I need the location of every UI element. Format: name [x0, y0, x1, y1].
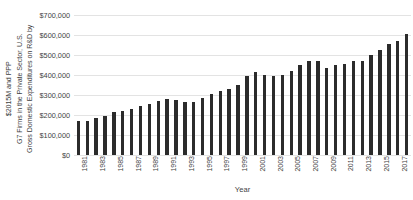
- x-axis-tick-label: 2003: [277, 156, 284, 172]
- bar: [281, 75, 284, 155]
- x-axis-tick-label: 2005: [294, 156, 301, 172]
- x-axis-tick-label: 2009: [330, 156, 337, 172]
- bar: [396, 41, 399, 155]
- bar-series: [74, 15, 411, 155]
- y-axis-title-line-3: $2015M and PPP: [4, 62, 15, 117]
- bar: [254, 72, 257, 155]
- y-axis-tick-labels: $0$100,000$200,000$300,000$400,000$500,0…: [34, 0, 73, 178]
- bar: [316, 61, 319, 155]
- bar: [378, 50, 381, 155]
- x-axis-tick-label: 1985: [117, 156, 124, 172]
- x-axis-tick-label: 1999: [241, 156, 248, 172]
- bar: [94, 118, 97, 155]
- bar: [405, 34, 408, 155]
- x-axis-tick-label: 2015: [383, 156, 390, 172]
- y-axis-tick-label: $600,000: [40, 31, 70, 40]
- bar: [219, 91, 222, 155]
- bar: [183, 102, 186, 155]
- bar: [298, 65, 301, 155]
- bar: [112, 112, 115, 155]
- bar: [290, 71, 293, 155]
- bar: [157, 101, 160, 155]
- bar: [227, 89, 230, 155]
- x-axis-tick-label: 1983: [99, 156, 106, 172]
- bar: [139, 106, 142, 155]
- bar: [165, 99, 168, 155]
- y-axis-tick-label: $200,000: [40, 111, 70, 120]
- bar: [192, 102, 195, 155]
- y-axis-title-line-2: G7 Firms in the Private Sector, U.S.: [15, 34, 26, 145]
- bar: [174, 100, 177, 155]
- x-axis-tick-label: 2001: [259, 156, 266, 172]
- bar: [334, 65, 337, 155]
- x-axis-title: Year: [74, 185, 411, 194]
- bar: [272, 76, 275, 155]
- bar: [307, 61, 310, 155]
- bar: [130, 109, 133, 155]
- y-axis-tick-label: $300,000: [40, 91, 70, 100]
- bar: [387, 44, 390, 155]
- bar: [210, 94, 213, 155]
- bar: [369, 55, 372, 155]
- x-axis-tick-label: 1993: [188, 156, 195, 172]
- x-axis-tick-label: 1989: [152, 156, 159, 172]
- bar: [103, 116, 106, 155]
- bar: [77, 121, 80, 155]
- rd-expenditures-bar-chart: Gross Domestic Expenditures on R&D by G7…: [0, 0, 413, 200]
- x-axis-tick-label: 1997: [223, 156, 230, 172]
- bar: [343, 64, 346, 155]
- y-axis-tick-label: $100,000: [40, 131, 70, 140]
- x-axis-tick-label: 2017: [401, 156, 408, 172]
- bar: [201, 98, 204, 155]
- bar: [361, 61, 364, 155]
- y-axis-tick-label: $400,000: [40, 71, 70, 80]
- bar: [121, 111, 124, 155]
- plot-area: [74, 15, 411, 155]
- bar: [86, 121, 89, 155]
- x-axis-tick-label: 1981: [81, 156, 88, 172]
- bar: [245, 76, 248, 155]
- y-axis-tick-label: $0: [62, 151, 70, 160]
- bar: [263, 75, 266, 155]
- bar: [325, 68, 328, 155]
- bar: [236, 85, 239, 155]
- x-axis-tick-label: 1995: [206, 156, 213, 172]
- x-axis-tick-labels: 1981198319851987198919911993199519971999…: [74, 156, 411, 182]
- bar: [352, 61, 355, 155]
- x-axis-tick-label: 2011: [347, 156, 354, 171]
- x-axis-tick-label: 2007: [312, 156, 319, 172]
- y-axis-tick-label: $700,000: [40, 11, 70, 20]
- x-axis-tick-label: 1991: [170, 156, 177, 172]
- bar: [148, 104, 151, 155]
- x-axis-tick-label: 2013: [365, 156, 372, 172]
- y-axis-tick-label: $500,000: [40, 51, 70, 60]
- x-axis-tick-label: 1987: [135, 156, 142, 172]
